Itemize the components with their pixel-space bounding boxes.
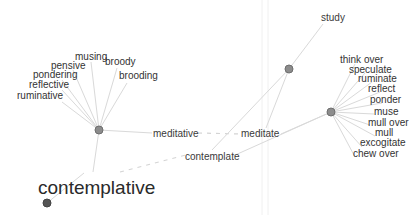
node-focus[interactable]: [43, 199, 51, 207]
label-reflective[interactable]: reflective: [29, 79, 69, 90]
word-graph: musing broody pensive brooding pondering…: [0, 0, 419, 215]
label-focus-word[interactable]: contemplative: [38, 177, 155, 198]
label-brooding[interactable]: brooding: [119, 70, 158, 81]
label-study[interactable]: study: [321, 12, 345, 23]
node-right-hub[interactable]: [327, 108, 335, 116]
label-contemplate[interactable]: contemplate: [185, 151, 240, 162]
label-meditative[interactable]: meditative: [153, 128, 199, 139]
label-chew-over[interactable]: chew over: [353, 148, 399, 159]
label-broody[interactable]: broody: [105, 56, 136, 67]
label-ruminative[interactable]: ruminative: [17, 90, 64, 101]
label-muse[interactable]: muse: [374, 106, 399, 117]
label-excogitate[interactable]: excogitate: [360, 137, 406, 148]
node-middle-hub[interactable]: [285, 65, 293, 73]
label-ponder[interactable]: ponder: [370, 94, 402, 105]
label-meditate[interactable]: meditate: [241, 128, 280, 139]
label-reflect[interactable]: reflect: [368, 83, 395, 94]
node-left-hub[interactable]: [95, 126, 103, 134]
